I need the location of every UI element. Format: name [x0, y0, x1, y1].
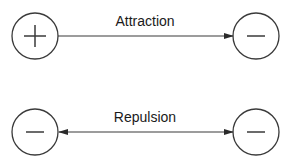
attraction-row: Attraction	[12, 13, 279, 59]
positive-charge-circle	[12, 13, 58, 59]
negative-charge-circle	[233, 13, 279, 59]
charge-interaction-diagram: Attraction Repulsion	[0, 0, 290, 163]
attraction-label: Attraction	[115, 13, 174, 29]
negative-charge-circle-left	[12, 109, 58, 155]
plus-icon	[24, 25, 46, 47]
repulsion-row: Repulsion	[12, 109, 279, 155]
repulsion-label: Repulsion	[114, 109, 176, 125]
negative-charge-circle-right	[233, 109, 279, 155]
